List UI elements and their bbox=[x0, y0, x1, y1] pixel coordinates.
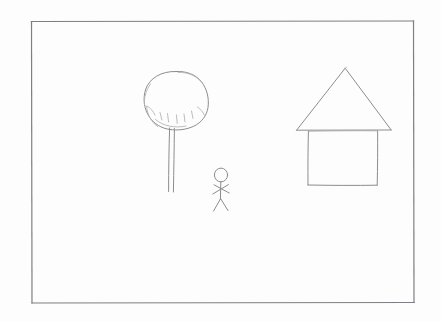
sketch-page: A pencil drawing inside a hand-ruled rec… bbox=[0, 0, 441, 321]
paper-background bbox=[0, 0, 441, 321]
sketch-canvas bbox=[0, 0, 441, 321]
